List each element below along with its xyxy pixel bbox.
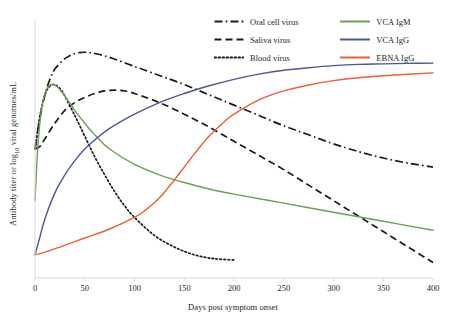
chart-legend: Oral cell virusVCA IgMSaliva virusVCA Ig… <box>214 14 442 65</box>
legend-swatch-icon <box>214 17 244 26</box>
legend-swatch-icon <box>340 35 370 44</box>
legend-label: Blood virus <box>250 53 290 63</box>
series-line-ebna-igg <box>35 73 433 255</box>
series-layer <box>35 52 433 262</box>
legend-label: VCA IgM <box>376 17 410 27</box>
x-tick-label: 350 <box>363 283 403 293</box>
y-axis-title: Antibody titer or log10 viral genomes/mL <box>8 54 20 254</box>
legend-label: Saliva virus <box>250 35 290 45</box>
y-axis-title-prefix: Antibody titer or log <box>8 154 18 226</box>
x-tick-label: 0 <box>15 283 55 293</box>
legend-item-ebna-igg[interactable]: EBNA IgG <box>340 50 442 65</box>
x-tick-label: 200 <box>214 283 254 293</box>
legend-item-vca-igm[interactable]: VCA IgM <box>340 14 442 29</box>
x-tick-label: 100 <box>115 283 155 293</box>
x-tick-label: 150 <box>164 283 204 293</box>
legend-swatch-icon <box>340 53 370 62</box>
legend-swatch-icon <box>214 35 244 44</box>
chart-figure: Antibody titer or log10 viral genomes/mL… <box>0 0 451 322</box>
y-axis-title-subscript: 10 <box>14 148 20 154</box>
x-tick-label: 50 <box>65 283 105 293</box>
legend-item-blood-virus[interactable]: Blood virus <box>214 50 326 65</box>
x-tick-label: 300 <box>314 283 354 293</box>
legend-swatch-icon <box>340 17 370 26</box>
y-axis-title-suffix: viral genomes/mL <box>8 82 18 148</box>
legend-label: Oral cell virus <box>250 17 299 27</box>
x-axis-title: Days post symptom onset <box>35 302 431 312</box>
series-line-oral-cell-virus <box>35 52 433 167</box>
legend-item-vca-igg[interactable]: VCA IgG <box>340 32 442 47</box>
x-tick-label: 400 <box>413 283 451 293</box>
legend-item-oral-cell-virus[interactable]: Oral cell virus <box>214 14 326 29</box>
x-tick-label: 250 <box>264 283 304 293</box>
legend-label: VCA IgG <box>376 35 409 45</box>
series-line-saliva-virus <box>35 90 433 262</box>
legend-item-saliva-virus[interactable]: Saliva virus <box>214 32 326 47</box>
legend-label: EBNA IgG <box>376 53 414 63</box>
legend-swatch-icon <box>214 53 244 62</box>
